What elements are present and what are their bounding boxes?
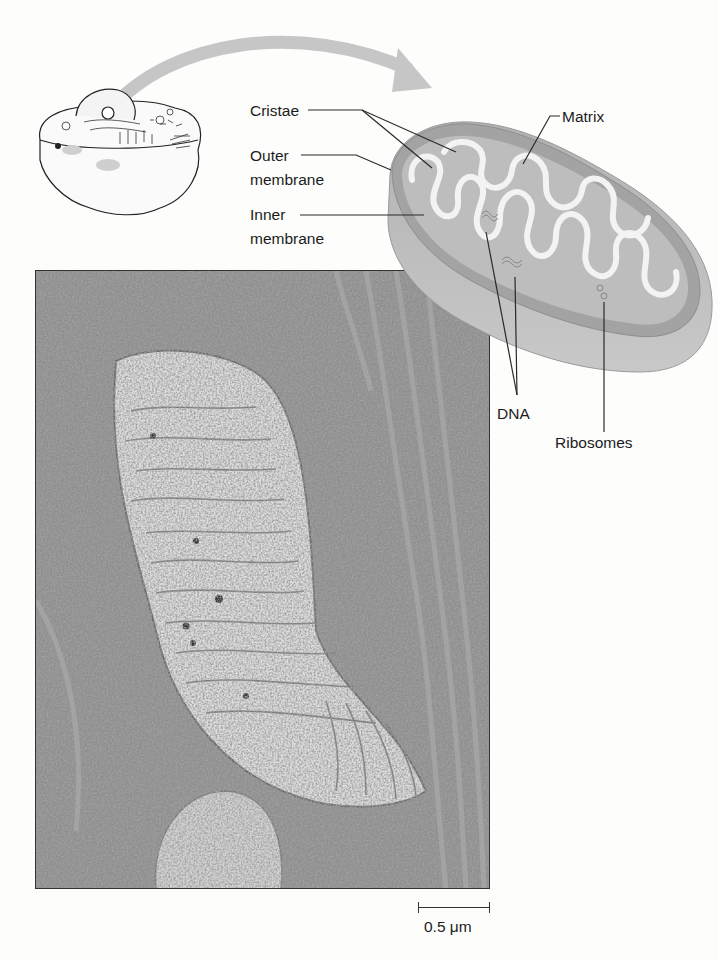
label-outer-membrane-2: membrane — [250, 170, 324, 189]
scale-bar-label: 0.5 μm — [424, 918, 472, 936]
scale-bar-line — [418, 907, 490, 908]
scale-bar-tick-left — [418, 902, 419, 913]
label-ribosomes: Ribosomes — [555, 433, 633, 452]
label-dna: DNA — [497, 404, 530, 423]
label-outer-membrane-1: Outer — [250, 146, 289, 165]
label-matrix: Matrix — [562, 107, 604, 126]
label-inner-membrane-2: membrane — [250, 229, 324, 248]
label-cristae: Cristae — [250, 101, 299, 120]
label-inner-membrane-1: Inner — [250, 205, 285, 224]
mitochondrion-illustration — [0, 0, 718, 960]
scale-bar-tick-right — [489, 902, 490, 913]
scale-bar — [418, 902, 490, 912]
